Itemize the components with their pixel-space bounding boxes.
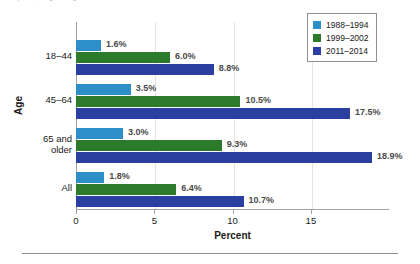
y-axis-category-labels: 18–4445–6465 andolderAll [0, 22, 72, 209]
bar[interactable] [76, 40, 101, 51]
bar[interactable] [76, 128, 123, 139]
x-tick-mark [154, 210, 155, 214]
footer-divider [22, 253, 398, 254]
bar-group: 1.8%6.4%10.7% [76, 172, 389, 208]
x-tick-label: 15 [296, 215, 326, 226]
bar-row: 8.8% [76, 64, 389, 75]
bar-value-label: 17.5% [355, 107, 381, 117]
bar-value-label: 6.4% [181, 183, 202, 193]
legend-color-swatch [313, 47, 321, 55]
bar-value-label: 1.8% [109, 171, 130, 181]
y-axis-category-label: All [4, 183, 72, 194]
x-tick-mark [233, 210, 234, 214]
bar-row: 10.5% [76, 96, 389, 107]
bar-value-label: 10.5% [245, 95, 271, 105]
bar[interactable] [76, 108, 350, 119]
bar[interactable] [76, 184, 176, 195]
x-tick-label: 5 [139, 215, 169, 226]
legend-item[interactable]: 2011–2014 [313, 44, 369, 57]
bar[interactable] [76, 196, 244, 207]
x-axis-title: Percent [76, 230, 389, 241]
legend-label: 1988–1994 [326, 20, 369, 30]
bar-value-label: 3.0% [128, 127, 149, 137]
bar[interactable] [76, 96, 240, 107]
bar-row: 10.7% [76, 196, 389, 207]
figure-caption-text: reported, among adults aged 18 and over:… [0, 0, 420, 2]
bar-value-label: 6.0% [175, 51, 196, 61]
bar-value-label: 8.8% [219, 63, 240, 73]
bar[interactable] [76, 84, 131, 95]
x-axis-ticks: 051015 [76, 210, 389, 226]
bar-row: 9.3% [76, 140, 389, 151]
bar-row: 3.0% [76, 128, 389, 139]
legend-label: 1999–2002 [326, 33, 369, 43]
bar[interactable] [76, 152, 372, 163]
legend-item[interactable]: 1988–1994 [313, 18, 369, 31]
bar-row: 1.8% [76, 172, 389, 183]
x-tick-label: 10 [218, 215, 248, 226]
bar-group: 3.0%9.3%18.9% [76, 128, 389, 164]
bar[interactable] [76, 172, 104, 183]
y-axis-category-label: 65 andolder [4, 134, 72, 155]
bar-value-label: 10.7% [249, 195, 275, 205]
bar[interactable] [76, 52, 170, 63]
legend-color-swatch [313, 34, 321, 42]
legend: 1988–19941999–20022011–2014 [307, 13, 377, 62]
bar-value-label: 1.6% [106, 39, 127, 49]
bar-row: 3.5% [76, 84, 389, 95]
x-tick-mark [76, 210, 77, 214]
bar-value-label: 9.3% [227, 139, 248, 149]
legend-color-swatch [313, 21, 321, 29]
figure-caption-strip: reported, among adults aged 18 and over:… [0, 0, 420, 4]
y-axis-title: Age [13, 76, 24, 136]
legend-label: 2011–2014 [326, 46, 368, 56]
bar[interactable] [76, 64, 214, 75]
bar-group: 3.5%10.5%17.5% [76, 84, 389, 120]
bar-row: 18.9% [76, 152, 389, 163]
bar-value-label: 18.9% [377, 151, 403, 161]
bar[interactable] [76, 140, 222, 151]
y-axis-category-label: 18–44 [4, 51, 72, 62]
bar-row: 6.4% [76, 184, 389, 195]
x-tick-label: 0 [61, 215, 91, 226]
bar-value-label: 3.5% [136, 83, 157, 93]
bar-row: 17.5% [76, 108, 389, 119]
legend-item[interactable]: 1999–2002 [313, 31, 369, 44]
x-tick-mark [311, 210, 312, 214]
